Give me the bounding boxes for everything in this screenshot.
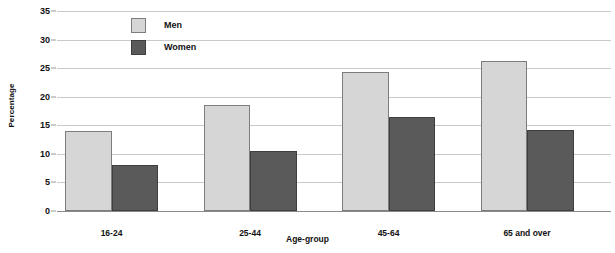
y-axis-tick-mark (51, 125, 56, 126)
gridline (57, 97, 611, 98)
gridline (57, 68, 611, 69)
y-axis-tick-mark (51, 211, 56, 212)
legend-item-men[interactable]: Men (131, 14, 196, 36)
bar-women-16-24[interactable] (112, 165, 159, 211)
y-axis-tick-label: 30 (40, 35, 50, 45)
y-axis-tick-mark (51, 153, 56, 154)
bar-men-25-44[interactable] (204, 105, 251, 211)
x-axis-baseline (57, 211, 611, 212)
y-axis-tick-mark (51, 96, 56, 97)
y-axis-tick-mark (51, 11, 56, 12)
legend-label-men: Men (164, 20, 182, 30)
y-axis-tick-label: 35 (40, 6, 50, 16)
legend-swatch-women-icon (131, 40, 146, 55)
bar-women-45-64[interactable] (389, 117, 436, 211)
bar-chart: Percentage 0510152025303516-2425-4445-64… (0, 0, 615, 253)
y-axis-tick-label: 15 (40, 120, 50, 130)
y-axis-tick-label: 10 (40, 149, 50, 159)
bar-women-25-44[interactable] (250, 151, 297, 211)
y-axis-tick-label: 0 (45, 206, 50, 216)
bar-men-45-64[interactable] (342, 72, 389, 211)
x-axis-title: Age-group (0, 234, 615, 244)
legend-item-women[interactable]: Women (131, 36, 196, 58)
gridline (57, 125, 611, 126)
y-axis-tick-label: 20 (40, 92, 50, 102)
y-axis-tick-mark (51, 182, 56, 183)
y-axis-tick-mark (51, 68, 56, 69)
y-axis-title: Percentage (0, 0, 22, 211)
chart-legend: Men Women (131, 14, 196, 58)
bar-women-65-and-over[interactable] (527, 130, 574, 211)
y-axis-tick-label: 5 (45, 177, 50, 187)
gridline (57, 11, 611, 12)
bar-men-16-24[interactable] (65, 131, 112, 211)
legend-swatch-men-icon (131, 18, 146, 33)
y-axis-tick-label: 25 (40, 63, 50, 73)
y-axis-title-label: Percentage (7, 83, 16, 127)
y-axis-tick-mark (51, 39, 56, 40)
legend-label-women: Women (164, 42, 196, 52)
bar-men-65-and-over[interactable] (481, 61, 528, 211)
